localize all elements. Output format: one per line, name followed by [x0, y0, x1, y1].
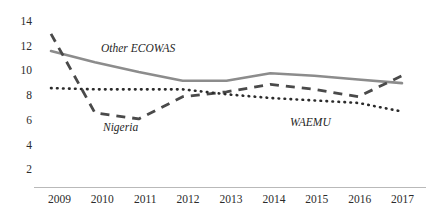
x-tick-2015: 2015 [295, 194, 338, 206]
x-tick-2009: 2009 [38, 194, 81, 206]
x-tick-2012: 2012 [167, 194, 210, 206]
series-label-waemu: WAEMU [290, 117, 331, 129]
series-line-other-ecowas [51, 51, 402, 83]
x-axis-baseline [34, 187, 426, 188]
series-label-other-ecowas: Other ECOWAS [101, 43, 175, 55]
line-chart: . 14 12 10 8 6 4 2 Other ECOWAS Nigeria … [0, 0, 428, 222]
x-tick-2016: 2016 [338, 194, 381, 206]
x-tick-2017: 2017 [381, 194, 424, 206]
x-axis: 2009 2010 2011 2012 2013 2014 2015 2016 … [38, 194, 424, 214]
x-tick-2010: 2010 [81, 194, 124, 206]
plot-area [0, 0, 428, 222]
series-label-nigeria: Nigeria [103, 122, 138, 134]
x-tick-2011: 2011 [124, 194, 167, 206]
x-tick-2014: 2014 [252, 194, 295, 206]
x-tick-2013: 2013 [210, 194, 253, 206]
